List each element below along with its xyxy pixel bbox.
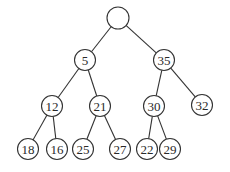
tree-node-root [107,7,129,29]
tree-edge [158,116,167,139]
node-label: 16 [51,142,65,157]
tree-node-29: 29 [160,139,181,160]
binary-tree-diagram: 53512213032181625272229 [0,0,230,172]
tree-edge [87,116,96,139]
node-label: 35 [158,53,171,68]
node-label: 18 [22,142,35,157]
tree-node-21: 21 [90,96,111,117]
tree-node-16: 16 [47,139,68,160]
tree-node-25: 25 [73,139,94,160]
tree-node-18: 18 [18,139,39,160]
tree-node-12: 12 [42,96,63,117]
tree-edge [91,26,111,51]
tree-edge [156,70,162,95]
node-label: 25 [77,142,90,157]
tree-edge [149,116,153,138]
tree-node-32: 32 [192,95,213,116]
tree-edge [126,25,156,53]
tree-edge [88,70,96,96]
tree-edges [33,25,195,140]
tree-node-5: 5 [75,50,96,71]
node-label: 21 [94,99,107,114]
tree-node-22: 22 [137,139,158,160]
node-label: 27 [114,142,128,157]
tree-edge [58,69,79,98]
tree-edge [104,116,115,140]
node-label: 5 [82,53,89,68]
tree-node-30: 30 [144,96,165,117]
node-label: 32 [196,98,209,113]
node-label: 29 [164,142,177,157]
node-label: 12 [46,99,59,114]
tree-edge [171,68,195,97]
tree-node-27: 27 [110,139,131,160]
node-label: 22 [141,142,154,157]
tree-node-35: 35 [154,50,175,71]
tree-edge [53,116,56,138]
node-label: 30 [148,99,161,114]
node-circle [107,7,129,29]
tree-edge [33,115,47,140]
